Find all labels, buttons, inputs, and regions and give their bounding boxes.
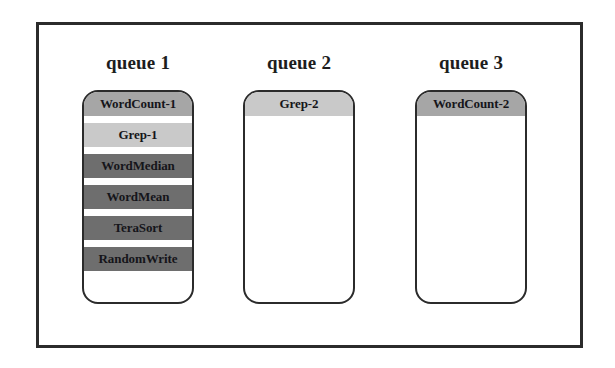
task-band-gap bbox=[84, 116, 192, 123]
queue-diagram: queue 1 WordCount-1Grep-1WordMedianWordM… bbox=[0, 0, 615, 368]
task-band-gap bbox=[84, 240, 192, 247]
task-band[interactable]: WordMedian bbox=[84, 154, 192, 178]
queue-column-2: queue 2 Grep-2 bbox=[219, 52, 379, 314]
task-band[interactable]: WordMean bbox=[84, 185, 192, 209]
queue-title-1: queue 1 bbox=[58, 52, 218, 78]
task-band[interactable]: TeraSort bbox=[84, 216, 192, 240]
task-band[interactable]: WordCount-1 bbox=[84, 92, 192, 116]
task-band-gap bbox=[84, 147, 192, 154]
queue-title-3: queue 3 bbox=[391, 52, 551, 78]
queue-box-1: WordCount-1Grep-1WordMedianWordMeanTeraS… bbox=[82, 90, 194, 304]
queue-column-3: queue 3 WordCount-2 bbox=[391, 52, 551, 314]
queue-box-2: Grep-2 bbox=[243, 90, 355, 304]
queue-title-2: queue 2 bbox=[219, 52, 379, 78]
task-band[interactable]: RandomWrite bbox=[84, 247, 192, 271]
task-band[interactable]: WordCount-2 bbox=[417, 92, 525, 116]
task-band[interactable]: Grep-1 bbox=[84, 123, 192, 147]
queue-box-2-tasks: Grep-2 bbox=[245, 92, 353, 302]
queue-box-3: WordCount-2 bbox=[415, 90, 527, 304]
task-band-gap bbox=[84, 209, 192, 216]
queue-columns-container: queue 1 WordCount-1Grep-1WordMedianWordM… bbox=[36, 22, 583, 348]
task-band-gap bbox=[84, 178, 192, 185]
task-band[interactable]: Grep-2 bbox=[245, 92, 353, 116]
queue-column-1: queue 1 WordCount-1Grep-1WordMedianWordM… bbox=[58, 52, 218, 314]
queue-box-1-tasks: WordCount-1Grep-1WordMedianWordMeanTeraS… bbox=[84, 92, 192, 302]
queue-box-3-tasks: WordCount-2 bbox=[417, 92, 525, 302]
